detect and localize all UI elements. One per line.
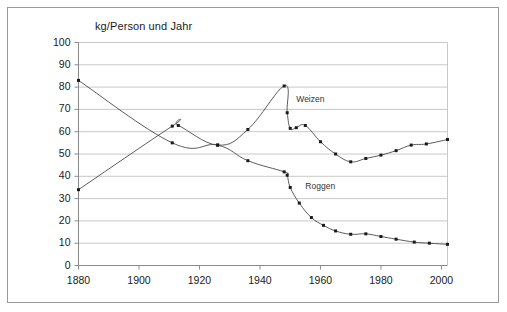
y-tick-label: 90	[45, 58, 71, 70]
x-tick-label: 1960	[300, 274, 340, 286]
chart-plot-area	[0, 0, 507, 312]
x-tick-label: 1920	[179, 274, 219, 286]
y-tick-label: 0	[45, 259, 71, 271]
y-tick-label: 60	[45, 125, 71, 137]
x-tick-label: 2000	[421, 274, 461, 286]
y-tick-label: 70	[45, 102, 71, 114]
x-tick-label: 1980	[361, 274, 401, 286]
x-tick-label: 1880	[59, 274, 99, 286]
x-tick-label: 1900	[119, 274, 159, 286]
y-axis-title: kg/Person und Jahr	[95, 20, 192, 32]
x-axis-ticks	[79, 266, 442, 270]
y-axis-ticks	[75, 43, 79, 266]
y-tick-label: 50	[45, 147, 71, 159]
y-tick-label: 30	[45, 192, 71, 204]
gridlines	[79, 43, 448, 244]
y-tick-label: 100	[45, 36, 71, 48]
series-annotation-weizen: Weizen	[296, 94, 324, 104]
y-tick-label: 40	[45, 169, 71, 181]
y-tick-label: 20	[45, 214, 71, 226]
x-tick-label: 1940	[240, 274, 280, 286]
y-tick-label: 10	[45, 236, 71, 248]
y-tick-label: 80	[45, 80, 71, 92]
series-lines	[79, 80, 448, 244]
series-annotation-roggen: Roggen	[305, 181, 335, 191]
